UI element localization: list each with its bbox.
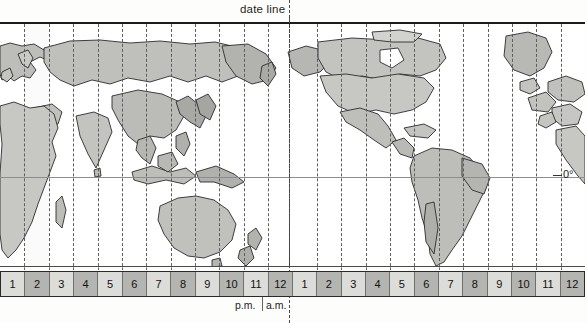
hour-cell: 3 xyxy=(50,272,74,296)
zone-boundary-line xyxy=(463,24,464,266)
strip-tick xyxy=(390,263,391,270)
hour-cell-label: 10 xyxy=(517,278,529,290)
strip-tick xyxy=(536,263,537,270)
map-canvas xyxy=(0,24,585,266)
hour-cell-label: 9 xyxy=(496,278,502,290)
land-mexico xyxy=(340,108,396,148)
zone-boundary-line xyxy=(561,24,562,266)
hour-cell-label: 11 xyxy=(542,278,553,290)
zone-boundary-line xyxy=(512,24,513,266)
hour-cell-label: 1 xyxy=(10,278,16,290)
hour-cell-label: 3 xyxy=(58,278,64,290)
hour-cell: 12 xyxy=(561,272,584,296)
strip-tick xyxy=(341,263,342,270)
land-western-europe-right xyxy=(548,76,585,102)
strip-tick xyxy=(195,263,196,270)
hour-cell: 11 xyxy=(244,272,268,296)
strip-tick xyxy=(366,263,367,270)
zone-boundary-line xyxy=(488,24,489,266)
zone-boundary-line xyxy=(536,24,537,266)
zone-boundary-line xyxy=(98,24,99,266)
zone-boundary-line xyxy=(24,24,25,266)
zone-boundary-line xyxy=(268,24,269,266)
hour-strip: 123456789101112123456789101112 xyxy=(0,271,585,297)
hour-cell: 8 xyxy=(463,272,487,296)
map-panel xyxy=(0,22,585,267)
hour-cell-label: 10 xyxy=(225,278,237,290)
hour-cell: 2 xyxy=(25,272,49,296)
hour-cell-label: 12 xyxy=(274,278,286,290)
hour-cell: 7 xyxy=(439,272,463,296)
strip-tick xyxy=(171,263,172,270)
strip-tick xyxy=(219,263,220,270)
strip-tick xyxy=(414,263,415,270)
zone-boundary-line xyxy=(219,24,220,266)
hour-cell: 1 xyxy=(293,272,317,296)
strip-tick xyxy=(73,263,74,270)
strip-tick xyxy=(317,263,318,270)
hour-cell-label: 5 xyxy=(107,278,113,290)
hour-cell-label: 12 xyxy=(566,278,578,290)
half-day-divider xyxy=(262,297,263,311)
strip-tick xyxy=(122,263,123,270)
hour-cell-label: 5 xyxy=(399,278,405,290)
hour-cell: 9 xyxy=(488,272,512,296)
half-day-labels: p.m. a.m. xyxy=(0,299,585,315)
hour-cell: 12 xyxy=(269,272,293,296)
hour-cell: 5 xyxy=(98,272,122,296)
strip-tick xyxy=(24,263,25,270)
date-line-label-row: date line xyxy=(0,3,587,19)
hour-cell: 10 xyxy=(512,272,536,296)
hour-cell: 8 xyxy=(171,272,195,296)
land-iberia-right xyxy=(552,104,582,126)
hour-cell: 2 xyxy=(317,272,341,296)
hour-cell-label: 6 xyxy=(423,278,429,290)
strip-tick xyxy=(439,263,440,270)
zone-boundary-line xyxy=(366,24,367,266)
land-central-america xyxy=(392,138,414,158)
land-india xyxy=(76,112,112,168)
hour-cell-label: 4 xyxy=(83,278,89,290)
equator-label: 0° xyxy=(563,168,574,180)
hour-cell: 5 xyxy=(390,272,414,296)
strip-tick xyxy=(561,263,562,270)
hour-cell-label: 8 xyxy=(472,278,478,290)
hour-cell-label: 7 xyxy=(156,278,162,290)
hour-cell: 3 xyxy=(342,272,366,296)
zone-boundary-line xyxy=(122,24,123,266)
strip-tick xyxy=(268,263,269,270)
hour-cell-label: 6 xyxy=(131,278,137,290)
hour-cell: 6 xyxy=(123,272,147,296)
land-caribbean xyxy=(404,124,436,138)
hour-cell-label: 8 xyxy=(180,278,186,290)
zone-boundary-line xyxy=(414,24,415,266)
hour-cell-label: 7 xyxy=(448,278,454,290)
hour-cell-label: 11 xyxy=(250,278,261,290)
equator-line xyxy=(0,177,585,178)
land-madagascar xyxy=(56,196,66,228)
strip-tick xyxy=(146,263,147,270)
hour-cell: 4 xyxy=(366,272,390,296)
hour-cell: 6 xyxy=(415,272,439,296)
zone-boundary-line xyxy=(439,24,440,266)
zone-boundary-line xyxy=(195,24,196,266)
land-united-states xyxy=(320,74,434,114)
zone-boundary-line xyxy=(49,24,50,266)
pm-label: p.m. xyxy=(235,299,255,311)
strip-tick xyxy=(98,263,99,270)
hour-cell: 1 xyxy=(1,272,25,296)
zone-boundary-line xyxy=(341,24,342,266)
strip-tick xyxy=(488,263,489,270)
hour-cell: 7 xyxy=(147,272,171,296)
zone-boundary-line xyxy=(171,24,172,266)
strip-tick xyxy=(512,263,513,270)
zone-boundary-line xyxy=(317,24,318,266)
landmass-layer xyxy=(0,24,585,266)
zone-boundary-line xyxy=(73,24,74,266)
hour-cell: 9 xyxy=(196,272,220,296)
land-uk-right xyxy=(538,112,556,128)
hour-cell-label: 1 xyxy=(302,278,308,290)
hour-cell-label: 2 xyxy=(326,278,332,290)
hour-cell: 10 xyxy=(220,272,244,296)
equator-tick xyxy=(553,175,562,176)
